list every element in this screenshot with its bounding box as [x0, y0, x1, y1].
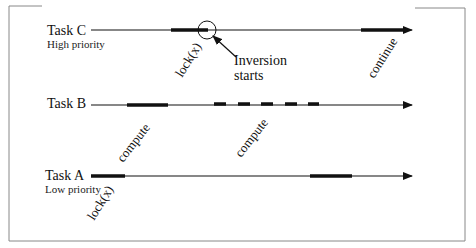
- task-a-label: Task A: [45, 168, 85, 183]
- task-c-priority: High priority: [47, 38, 105, 50]
- task-a-priority: Low priority: [45, 183, 101, 195]
- inversion-label-line1: Inversion: [234, 53, 287, 68]
- inversion-label-line2: starts: [234, 68, 264, 83]
- task-a-row: Task A Low priority lock(x): [45, 168, 412, 223]
- inversion-arrow-icon: [213, 36, 236, 57]
- task-b-compute-label-2: compute: [232, 115, 272, 160]
- task-c-lock-label: lock(x): [172, 40, 205, 80]
- task-c-continue-label: continue: [364, 34, 401, 80]
- task-b-label: Task B: [47, 96, 86, 111]
- task-b-compute-label-1: compute: [114, 120, 154, 165]
- task-b-row: Task B compute compute: [47, 96, 412, 165]
- task-c-label: Task C: [47, 23, 86, 38]
- priority-inversion-diagram: Task C High priority lock(x) continue In…: [0, 0, 476, 248]
- task-c-row: Task C High priority lock(x) continue In…: [47, 21, 412, 83]
